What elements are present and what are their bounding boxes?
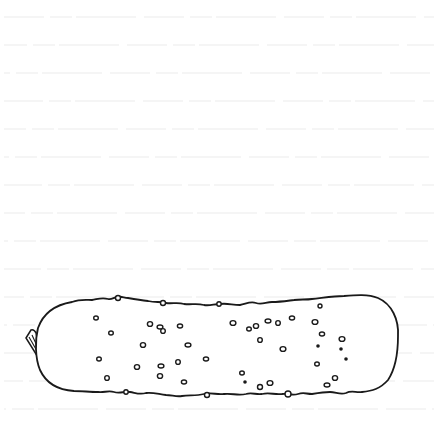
dark-dot [344,357,348,361]
pickle-icon [26,295,398,397]
bump [319,332,324,336]
bump [105,376,110,381]
bump [276,321,281,326]
bump [185,343,191,347]
bump [134,365,139,370]
bump [203,357,208,361]
bump [230,321,236,326]
bump [147,322,152,327]
bump [157,374,162,379]
dark-dot [339,347,343,351]
bump [247,327,252,331]
bump [158,364,164,368]
bump [177,324,182,328]
bump [280,347,286,352]
pickle-drawing [0,0,438,431]
bump [339,337,345,342]
bump [94,316,99,320]
bump [324,383,330,387]
bump [253,324,258,329]
pickle-body-outline [36,295,398,396]
bump [258,338,263,343]
dark-dot [243,380,247,384]
bump [176,360,181,365]
bump [267,381,273,386]
bump [109,331,114,335]
bump [289,316,294,320]
bump [332,376,337,381]
bump [140,343,145,348]
bump [240,371,245,375]
bump [315,362,320,366]
dark-dot [316,344,320,348]
bump [312,320,318,325]
bump [181,380,186,384]
bump [161,329,166,334]
bump [97,357,102,361]
bump [265,319,271,323]
